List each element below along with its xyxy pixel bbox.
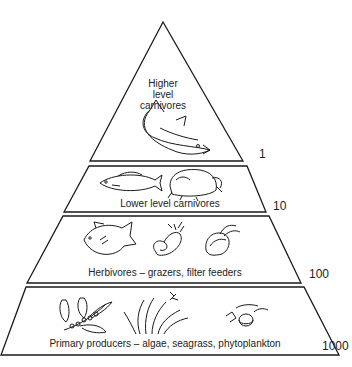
tier-top-label-line-3: carnivores xyxy=(133,100,193,111)
tier-lower-carnivores-value: 10 xyxy=(273,200,286,213)
tier-top-label-line-2: level xyxy=(133,89,193,100)
tier-herbivores-value: 100 xyxy=(309,268,329,281)
tier-herbivores-label: Herbivores – grazers, filter feeders xyxy=(60,267,270,278)
tier-top-value: 1 xyxy=(259,148,266,161)
tier-primary-producers-label: Primary producers – algae, seagrass, phy… xyxy=(25,338,305,349)
tier-primary-producers-value: 1000 xyxy=(322,340,349,353)
tier-lower-carnivores-label: Lower level carnivores xyxy=(95,198,245,209)
pyramid-diagram xyxy=(0,0,352,367)
tier-top-label: Higher level carnivores xyxy=(133,78,193,111)
tier-top-label-line-1: Higher xyxy=(133,78,193,89)
